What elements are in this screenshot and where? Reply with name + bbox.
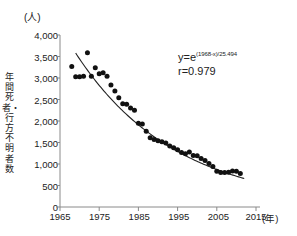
data-point bbox=[124, 102, 129, 107]
data-point bbox=[85, 50, 90, 55]
data-point bbox=[238, 171, 243, 176]
data-point bbox=[81, 74, 86, 79]
data-point bbox=[89, 74, 94, 79]
data-points-group bbox=[69, 50, 243, 176]
data-point bbox=[105, 74, 110, 79]
chart-container: (人) 年間死者・行方不明者数 y=e(1968-x)/25.494 r=0.9… bbox=[0, 0, 297, 236]
data-point bbox=[93, 65, 98, 70]
axes-group bbox=[56, 35, 260, 211]
data-point bbox=[132, 108, 137, 113]
data-point bbox=[112, 88, 117, 93]
data-point bbox=[101, 70, 106, 75]
data-point bbox=[116, 95, 121, 100]
data-point bbox=[163, 140, 168, 145]
plot-area bbox=[0, 0, 297, 236]
data-point bbox=[69, 64, 74, 69]
data-point bbox=[144, 129, 149, 134]
data-point bbox=[140, 122, 145, 127]
data-point bbox=[108, 82, 113, 87]
data-point bbox=[210, 164, 215, 169]
data-point bbox=[187, 149, 192, 154]
data-point bbox=[203, 158, 208, 163]
data-point bbox=[206, 161, 211, 166]
